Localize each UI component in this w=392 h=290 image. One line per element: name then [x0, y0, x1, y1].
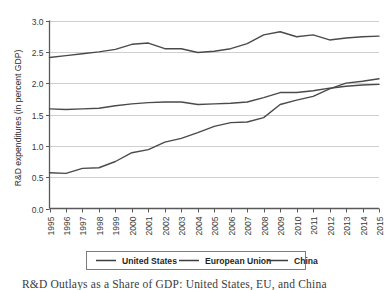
y-tick-labels: 0.00.51.01.52.02.53.0 [32, 17, 44, 215]
x-tick-label: 2002 [161, 216, 171, 235]
x-tick-label: 2006 [227, 216, 237, 235]
series-line-united-states [50, 32, 380, 58]
figure-caption-strip: R&D Outlays as a Share of GDP: United St… [0, 278, 392, 290]
x-tick-label: 2009 [276, 216, 286, 235]
legend-label-china: China [294, 256, 318, 266]
y-tick-label: 2.0 [32, 79, 44, 89]
gridlines [50, 22, 380, 178]
y-tick-label: 0.0 [32, 205, 44, 215]
x-tick-marks [51, 209, 380, 213]
legend-label-european-union: European Union [205, 256, 271, 266]
y-tick-label: 0.5 [32, 173, 44, 183]
y-tick-label: 1.5 [32, 111, 44, 121]
x-tick-label: 2001 [144, 216, 154, 235]
series-lines [50, 32, 380, 174]
y-axis-title: R&D expenditures (in percent GDP) [13, 50, 23, 187]
rd-expenditures-line-chart: R&D expenditures (in percent GDP) 0.00.5… [0, 0, 392, 290]
x-tick-label: 2013 [342, 216, 352, 235]
x-tick-label: 2012 [326, 216, 336, 235]
x-tick-label: 2005 [210, 216, 220, 235]
x-tick-label: 1997 [78, 216, 88, 235]
y-tick-label: 2.5 [32, 48, 44, 58]
x-tick-label: 2015 [375, 216, 385, 235]
x-tick-label: 2004 [194, 216, 204, 235]
y-tick-label: 1.0 [32, 142, 44, 152]
x-tick-label: 2000 [128, 216, 138, 235]
x-tick-label: 2014 [359, 216, 369, 235]
x-tick-label: 2010 [293, 216, 303, 235]
x-tick-label: 2003 [177, 216, 187, 235]
x-tick-label: 2008 [260, 216, 270, 235]
y-tick-label: 3.0 [32, 17, 44, 27]
x-tick-label: 1996 [62, 216, 72, 235]
x-tick-label: 2007 [243, 216, 253, 235]
x-tick-label: 1995 [46, 216, 56, 235]
figure-container: R&D expenditures (in percent GDP) 0.00.5… [0, 0, 392, 290]
legend-label-united-states: United States [122, 256, 177, 266]
figure-caption: R&D Outlays as a Share of GDP: United St… [22, 278, 327, 290]
x-tick-label: 1999 [111, 216, 121, 235]
x-tick-labels: 1995199619971998199920002001200220032004… [46, 216, 385, 235]
x-tick-label: 2011 [309, 216, 319, 235]
x-tick-label: 1998 [95, 216, 105, 235]
series-line-china [50, 79, 380, 174]
